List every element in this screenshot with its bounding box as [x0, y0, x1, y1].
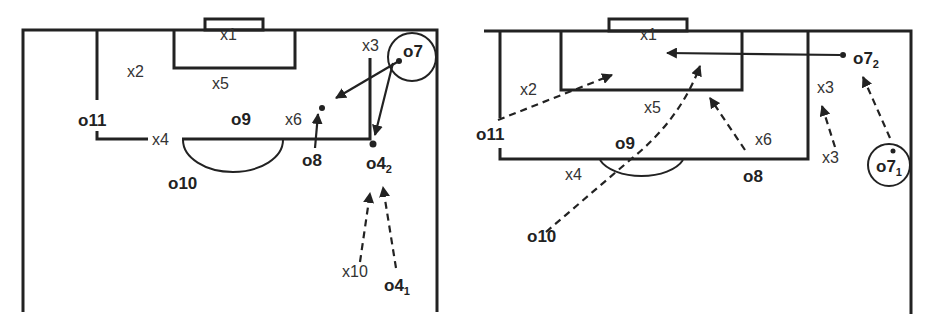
diagram-canvas	[0, 0, 932, 326]
player-label-o11: o11	[78, 112, 106, 129]
right-pitch	[484, 19, 911, 314]
label-subscript: 2	[386, 163, 392, 175]
player-label-x5: x5	[644, 100, 661, 116]
label-text: o4	[384, 276, 404, 295]
player-label-o4-1: o41	[384, 277, 410, 297]
player-label-o10: o10	[527, 228, 556, 245]
player-label-o10: o10	[168, 175, 197, 192]
player-label-x10: x10	[342, 264, 368, 280]
player-label-o9: o9	[615, 135, 635, 152]
label-subscript: 1	[404, 285, 410, 297]
player-label-x3b: x3	[822, 150, 839, 166]
player-label-x3: x3	[362, 38, 379, 54]
player-label-x1: x1	[220, 27, 237, 43]
player-label-o9: o9	[231, 111, 251, 128]
label-text: o7	[853, 49, 873, 68]
player-label-x3a: x3	[817, 80, 834, 96]
label-subscript: 1	[896, 166, 902, 178]
player-label-o4-2: o42	[366, 155, 392, 175]
player-label-o7-1: o71	[876, 158, 902, 178]
player-label-x1: x1	[640, 27, 657, 43]
player-label-x6: x6	[285, 112, 302, 128]
player-label-x4: x4	[565, 167, 582, 183]
player-label-x4: x4	[152, 132, 169, 148]
player-label-o7-2: o72	[853, 50, 879, 70]
player-label-o7: o7	[403, 43, 423, 60]
player-label-o8: o8	[302, 152, 322, 169]
player-label-o11: o11	[476, 126, 504, 143]
player-label-x6: x6	[755, 132, 772, 148]
player-label-x2: x2	[520, 82, 537, 98]
player-label-o8: o8	[743, 168, 763, 185]
label-text: o7	[876, 157, 896, 176]
label-subscript: 2	[873, 58, 879, 70]
player-label-x2: x2	[127, 64, 144, 80]
player-label-x5: x5	[212, 76, 229, 92]
label-text: o4	[366, 154, 386, 173]
